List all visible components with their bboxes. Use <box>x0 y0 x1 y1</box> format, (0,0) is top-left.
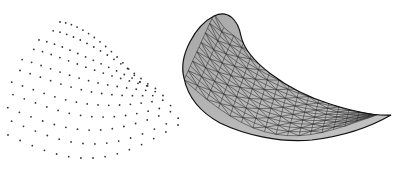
mesh-edge <box>312 81 321 89</box>
mesh-edge <box>301 80 310 88</box>
mesh-edge <box>371 107 381 111</box>
mesh-edge <box>262 55 264 60</box>
mesh-edge <box>351 99 352 101</box>
mesh-edge <box>371 107 381 111</box>
mesh-edge <box>293 71 302 80</box>
mesh-edge <box>300 85 310 89</box>
mesh-edge <box>310 89 319 96</box>
mesh-edge <box>351 103 361 107</box>
mesh-edge <box>320 93 321 97</box>
mesh-edge <box>369 113 380 114</box>
mesh-edge <box>253 49 263 55</box>
mesh-edge <box>253 49 261 60</box>
mesh-edge <box>273 61 282 71</box>
mesh-edge <box>262 60 272 66</box>
mesh-edge <box>331 96 340 102</box>
mesh-edge <box>282 71 293 72</box>
mesh-edge <box>321 86 322 90</box>
mesh-edge <box>340 102 351 103</box>
mesh-edge <box>370 110 380 112</box>
mesh-edge <box>371 109 381 112</box>
mesh-edge <box>319 96 320 100</box>
mesh-edge <box>321 93 331 97</box>
mesh-edge <box>272 66 282 71</box>
mesh-edge <box>330 96 331 99</box>
mesh-edge <box>352 99 362 103</box>
mesh-edge <box>303 76 313 81</box>
mesh-edge <box>310 89 311 93</box>
mesh-edge <box>292 76 302 81</box>
mesh-edge <box>310 85 311 89</box>
mesh-edge <box>322 86 332 91</box>
mesh-edge <box>360 107 370 110</box>
mesh-edge <box>263 55 273 61</box>
mesh-edge <box>351 103 361 105</box>
mesh-edge <box>370 111 381 112</box>
mesh-edge <box>301 76 302 80</box>
mesh-edge <box>360 107 370 109</box>
mesh-edge <box>361 104 371 108</box>
mesh-edge <box>381 111 391 115</box>
mesh-edge <box>351 101 361 105</box>
mesh-edge <box>341 94 342 97</box>
mesh-edge <box>321 89 330 96</box>
mesh-edge <box>301 80 312 81</box>
mesh-edge <box>341 97 351 101</box>
mesh-edge <box>360 110 370 112</box>
mesh-edge <box>381 111 391 115</box>
mesh-edge <box>312 81 322 86</box>
mesh-edge <box>282 71 291 81</box>
mesh-edge <box>340 99 341 102</box>
mesh-edge <box>381 111 391 115</box>
mesh-edge <box>293 71 303 76</box>
mesh-edge <box>351 103 361 106</box>
mesh-edge <box>352 99 361 105</box>
mesh-edge <box>283 66 293 71</box>
mesh-edge <box>360 107 371 109</box>
mesh-edge <box>341 97 342 100</box>
mesh-edge <box>349 107 350 109</box>
mesh-edge <box>359 111 370 112</box>
mesh-edge <box>362 103 372 107</box>
mesh-edge <box>340 105 350 107</box>
mesh-edge <box>342 94 352 98</box>
mesh-surface <box>0 0 401 169</box>
mesh-edge <box>311 85 321 89</box>
mesh-edge <box>371 108 381 111</box>
mesh-edge <box>351 101 352 103</box>
mesh-edge <box>321 89 331 93</box>
figure <box>0 0 401 169</box>
mesh-edge <box>361 106 371 109</box>
mesh-edge <box>340 102 341 105</box>
mesh-edge <box>260 60 262 65</box>
mesh-edge <box>300 80 301 84</box>
mesh-edge <box>360 108 370 110</box>
mesh-edge <box>310 89 320 93</box>
mesh-edge <box>370 112 380 113</box>
mesh-edge <box>331 90 332 93</box>
mesh-edge <box>289 80 290 85</box>
mesh-edge <box>361 104 371 108</box>
mesh-edge <box>273 61 283 66</box>
mesh-edge <box>340 102 350 105</box>
mesh-edge <box>350 107 360 110</box>
mesh-edge <box>371 109 381 111</box>
mesh-edge <box>290 76 291 81</box>
mesh-edge <box>331 93 332 96</box>
mesh-edge <box>321 89 322 93</box>
mesh-edge <box>341 97 351 103</box>
mesh-edge <box>311 81 312 85</box>
mesh-edge <box>381 111 391 115</box>
mesh-edge <box>282 71 292 76</box>
mesh-edge <box>330 99 340 102</box>
mesh-edge <box>282 66 283 71</box>
mesh-edge <box>252 49 254 54</box>
mesh-edge <box>262 60 273 61</box>
mesh-edge <box>371 109 381 112</box>
mesh-edge <box>350 103 351 105</box>
mesh-edge <box>320 96 330 99</box>
mesh-edge <box>331 96 342 97</box>
mesh-edge <box>331 96 341 99</box>
mesh-edge <box>280 76 290 81</box>
mesh-edge <box>350 107 361 108</box>
